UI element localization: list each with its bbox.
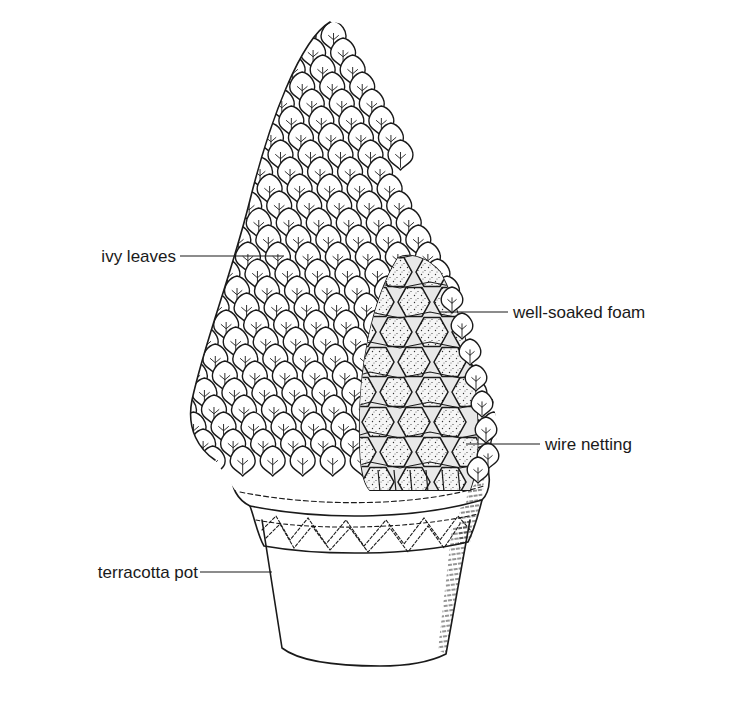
label-ivy-leaves: ivy leaves bbox=[101, 247, 176, 266]
label-terracotta-pot: terracotta pot bbox=[98, 563, 198, 582]
topiary-illustration: ivy leaves well-soaked foam wire netting… bbox=[0, 0, 742, 714]
label-wire-netting: wire netting bbox=[544, 435, 632, 454]
diagram-canvas: ivy leaves well-soaked foam wire netting… bbox=[0, 0, 742, 714]
terracotta-pot bbox=[232, 462, 490, 666]
label-well-soaked-foam: well-soaked foam bbox=[512, 303, 645, 322]
